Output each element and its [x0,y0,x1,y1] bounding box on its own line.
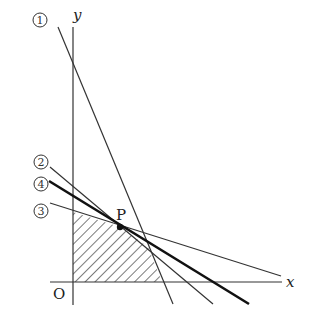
line-2-label: 2 [34,155,48,169]
line-3-label: 3 [34,204,48,218]
svg-text:2: 2 [38,156,45,169]
svg-text:4: 4 [38,178,45,191]
origin-label: O [53,285,65,303]
point-p-label: P [116,206,126,224]
svg-text:1: 1 [37,14,44,27]
line-1-label: 1 [33,13,47,27]
diagram-canvas: P x y O 1 2 4 3 [0,0,317,331]
point-p [117,224,123,230]
x-axis-label: x [286,273,295,291]
y-axis-label: y [72,6,82,24]
line-4-label: 4 [34,177,48,191]
svg-text:3: 3 [38,205,45,218]
